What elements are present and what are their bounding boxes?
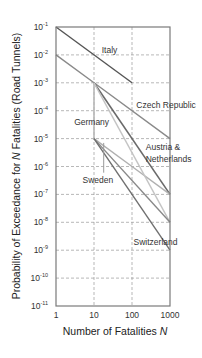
annotation-label: Italy — [102, 45, 118, 55]
y-tick-label: 10-3 — [34, 77, 48, 88]
y-axis-title: Probability of Exceedance for N Fataliti… — [10, 33, 22, 300]
y-tick-label: 10-1 — [34, 21, 48, 32]
y-tick-label: 10-6 — [34, 161, 48, 172]
y-tick-label: 10-4 — [34, 105, 48, 116]
x-axis-ticks: 1101001000 — [54, 310, 180, 320]
x-tick-label: 1 — [54, 310, 59, 320]
y-tick-label: 10-9 — [34, 244, 48, 255]
x-tick-label: 100 — [125, 310, 139, 320]
annotation-label: Netherlands — [146, 154, 192, 164]
fn-curve-chart: 10-110-210-310-410-510-610-710-810-910-1… — [0, 0, 202, 358]
annotation-label: Austria & — [146, 142, 181, 152]
y-tick-label: 10-5 — [34, 133, 48, 144]
series-annotations: ItalyCzech RepublicAustria &NetherlandsG… — [74, 45, 196, 248]
y-tick-label: 10-10 — [31, 272, 48, 283]
y-tick-label: 10-2 — [34, 49, 48, 60]
x-axis-title: Number of Fatalities N — [63, 325, 168, 337]
y-tick-label: 10-8 — [34, 216, 48, 227]
annotation-label: Switzerland — [134, 237, 178, 247]
x-tick-label: 1000 — [161, 310, 180, 320]
y-tick-label: 10-11 — [31, 300, 48, 311]
x-tick-label: 10 — [89, 310, 99, 320]
annotation-label: Sweden — [83, 175, 114, 185]
annotation-label: Czech Republic — [136, 100, 196, 110]
annotation-label: Germany — [74, 117, 110, 127]
series-line-czech-republic — [56, 55, 170, 139]
y-tick-label: 10-7 — [34, 188, 48, 199]
y-axis-ticks: 10-110-210-310-410-510-610-710-810-910-1… — [31, 21, 48, 311]
